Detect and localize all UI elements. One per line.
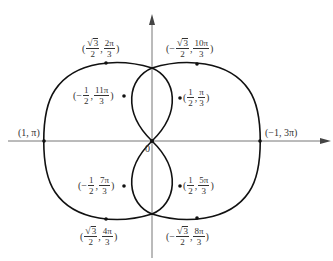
horizontal-axis-arrow-icon — [320, 138, 331, 144]
point-label-p10: ( − √32, 8π3 ) — [166, 226, 209, 247]
point-label-p1: (1, π) — [18, 128, 40, 138]
point-marker-p8 — [178, 184, 182, 188]
point-label-p4: ( − √32, 10π3 ) — [166, 38, 213, 59]
point-marker-p4 — [195, 62, 199, 66]
point-marker-p1 — [42, 139, 46, 143]
point-marker-p2 — [258, 139, 262, 143]
point-label-p8: ( 12, 5π3 ) — [183, 175, 214, 196]
point-marker-p3 — [104, 61, 108, 65]
origin-marker — [150, 139, 154, 143]
vertical-axis-arrow-icon — [149, 14, 155, 25]
point-label-p9: ( √32, 4π3 ) — [80, 226, 117, 247]
point-label-p3: ( √32, 2π3 ) — [82, 38, 119, 59]
point-marker-p9 — [104, 217, 108, 221]
point-marker-p6 — [178, 96, 182, 100]
point-label-p5: ( − 12, 11π3 ) — [73, 85, 114, 106]
point-label-p6: ( 12, π3 ) — [183, 87, 209, 108]
point-marker-p7 — [122, 184, 126, 188]
point-marker-p5 — [122, 94, 126, 98]
point-label-p7: ( − 12, 7π3 ) — [78, 175, 114, 196]
origin-label: 0 — [145, 144, 150, 154]
point-label-p2: (−1, 3π) — [265, 128, 297, 138]
point-marker-p10 — [195, 216, 199, 220]
